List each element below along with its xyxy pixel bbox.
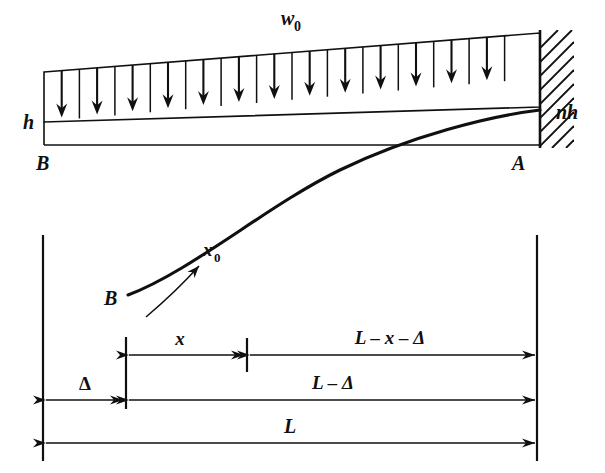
figure-canvas: h nh B A w 0 x 0 B (0, 0, 605, 473)
label-x0-main: x (202, 239, 213, 260)
dimension-row-bottom: L (46, 415, 535, 443)
load-arrow (198, 59, 209, 105)
label-h: h (23, 111, 34, 133)
label-B-beam: B (35, 152, 49, 174)
beam-deflection-figure: h nh B A w 0 x 0 B (0, 0, 605, 473)
dimension-system: x L – x – Δ Δ L – Δ L (43, 235, 537, 461)
load-arrow (411, 43, 422, 87)
label-x0-sub: 0 (214, 250, 221, 265)
label-dim-L-delta: L – Δ (311, 372, 354, 393)
load-arrow (481, 37, 492, 80)
dimension-row-top: x L – x – Δ (129, 327, 535, 355)
label-nh: nh (556, 101, 578, 123)
load-arrow (163, 62, 174, 108)
load-arrow (233, 57, 244, 102)
label-w0-sub: 0 (294, 19, 301, 34)
load-arrows (56, 37, 492, 118)
deflection-curve (128, 110, 540, 295)
label-dim-delta: Δ (79, 373, 91, 394)
label-dim-x: x (174, 328, 185, 349)
wall-hatching (540, 30, 574, 148)
load-arrow (340, 48, 351, 92)
load-arrow (304, 51, 315, 96)
label-B-curve: B (103, 287, 117, 309)
label-A: A (510, 152, 525, 174)
label-dim-L: L (283, 415, 296, 437)
label-dim-L-x-delta: L – x – Δ (354, 327, 425, 348)
load-arrow (92, 68, 103, 115)
load-arrow (56, 71, 67, 118)
beam-assembly: h nh B A w 0 (23, 7, 578, 295)
load-arrow (375, 45, 386, 89)
fixed-support-wall (540, 30, 574, 148)
label-w0: w 0 (281, 7, 301, 34)
load-arrow (269, 54, 280, 99)
load-arrow (446, 40, 457, 84)
load-cell-dividers (79, 36, 504, 119)
load-arrow (127, 65, 138, 111)
label-w0-main: w (281, 7, 295, 29)
dimension-row-middle: Δ L – Δ (46, 372, 535, 400)
